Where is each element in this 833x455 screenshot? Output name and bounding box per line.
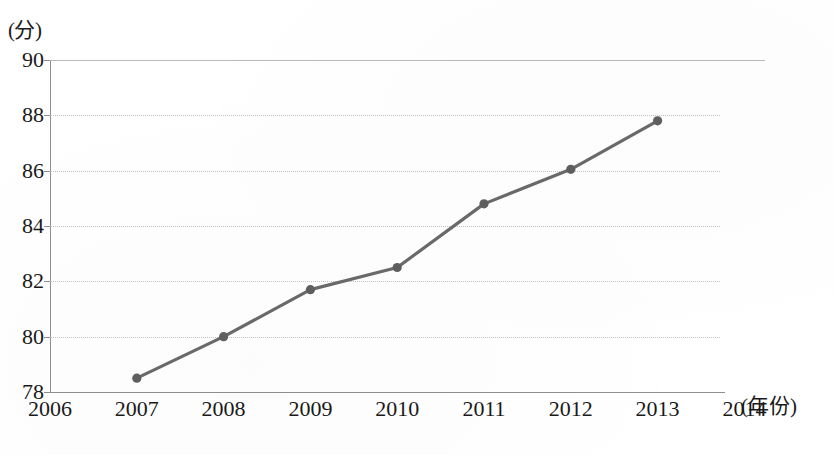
series-polyline (137, 121, 658, 378)
x-axis-unit-label: (年份) (741, 396, 797, 417)
x-axis-tick-label: 2011 (462, 398, 505, 420)
y-axis-tick-label: 88 (0, 104, 44, 126)
y-axis-tick-mark (44, 392, 50, 393)
y-axis-unit-label: (分) (8, 20, 42, 41)
x-axis-tick-label: 2007 (115, 398, 159, 420)
data-point-marker: 2007: 78.5 (132, 374, 141, 383)
y-axis-tick-label: 90 (0, 49, 44, 71)
line-chart: (分) 90888684828078 2007: 78.52008: 80200… (0, 0, 833, 455)
data-series-line: 2007: 78.52008: 802009: 81.72010: 82.520… (50, 60, 725, 392)
x-axis-tick-label: 2012 (549, 398, 593, 420)
y-axis-tick-label: 80 (0, 326, 44, 348)
data-point-marker: 2008: 80 (219, 332, 228, 341)
x-axis-tick-label: 2010 (375, 398, 419, 420)
data-point-marker: 2010: 82.5 (393, 263, 402, 272)
data-point-marker: 2012: 86.05 (566, 165, 575, 174)
y-axis-tick-labels: 90888684828078 (0, 60, 44, 392)
y-axis-tick-label: 84 (0, 215, 44, 237)
x-axis-line (50, 392, 725, 393)
y-axis-tick-label: 82 (0, 270, 44, 292)
data-point-marker: 2011: 84.8 (479, 199, 488, 208)
plot-area: 2007: 78.52008: 802009: 81.72010: 82.520… (50, 60, 725, 392)
y-axis-tick-label: 86 (0, 160, 44, 182)
x-axis-tick-label: 2009 (288, 398, 332, 420)
x-axis-tick-labels: 200620072008200920102011201220132014 (0, 398, 833, 428)
data-point-marker: 2013: 87.8 (653, 116, 662, 125)
data-point-marker: 2009: 81.7 (306, 285, 315, 294)
x-axis-tick-label: 2006 (28, 398, 72, 420)
x-axis-tick-label: 2013 (636, 398, 680, 420)
x-axis-tick-label: 2008 (202, 398, 246, 420)
